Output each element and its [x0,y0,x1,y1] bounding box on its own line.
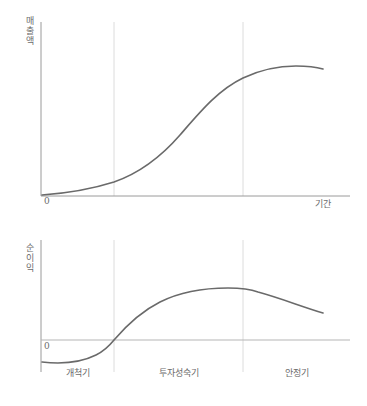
bottom-chart-zero-label: 0 [44,341,50,351]
phase-label-investment-maturity: 투자성숙기 [114,366,243,379]
bottom-chart-plot [0,0,367,406]
phase-label-pioneering: 개척기 [41,366,114,379]
business-lifecycle-figure: 매출액 0 기간 순이익 0 개척기 투자성숙기 안정기 [0,0,367,406]
net-profit-curve [42,288,323,363]
phase-label-stabilization: 안정기 [243,366,350,379]
